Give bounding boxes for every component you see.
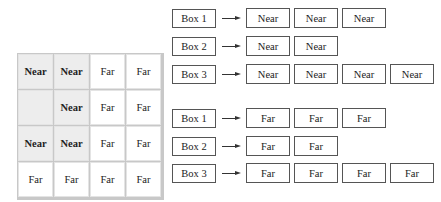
far-group-row: Box 2FarFar bbox=[172, 136, 342, 156]
grid-cell: Near bbox=[18, 126, 53, 161]
near-group-row: Box 3NearNearNearNear bbox=[172, 64, 438, 84]
grid-cell: Far bbox=[126, 54, 161, 89]
box-label: Box 1 bbox=[172, 109, 216, 128]
grid-cell: Near bbox=[54, 54, 89, 89]
grid-cell: Near bbox=[54, 90, 89, 125]
output-box: Far bbox=[390, 163, 434, 183]
box-label: Box 3 bbox=[172, 164, 216, 183]
output-box: Far bbox=[294, 108, 338, 128]
output-box: Far bbox=[294, 163, 338, 183]
output-box: Far bbox=[246, 108, 290, 128]
grid-cell: Far bbox=[126, 126, 161, 161]
grid-cell: Far bbox=[90, 126, 125, 161]
output-box: Near bbox=[342, 8, 386, 28]
output-box: Near bbox=[246, 36, 290, 56]
output-box: Far bbox=[342, 108, 386, 128]
grid-cell: Far bbox=[90, 90, 125, 125]
grid-cell: Far bbox=[90, 54, 125, 89]
box-label: Box 1 bbox=[172, 9, 216, 28]
far-group-row: Box 3FarFarFarFar bbox=[172, 163, 438, 183]
output-box: Near bbox=[246, 8, 290, 28]
arrow-right-icon bbox=[220, 36, 242, 56]
arrow-right-icon bbox=[220, 136, 242, 156]
grid-cell: Far bbox=[90, 162, 125, 197]
box-label: Box 2 bbox=[172, 137, 216, 156]
grid-cell: Far bbox=[54, 162, 89, 197]
output-box: Near bbox=[294, 8, 338, 28]
grid-cell: Far bbox=[126, 162, 161, 197]
output-box: Near bbox=[294, 36, 338, 56]
output-box: Near bbox=[246, 64, 290, 84]
box-label: Box 2 bbox=[172, 37, 216, 56]
grid-cell bbox=[18, 90, 53, 125]
output-box: Near bbox=[342, 64, 386, 84]
output-box: Near bbox=[390, 64, 434, 84]
output-box: Far bbox=[246, 163, 290, 183]
grid-cell: Near bbox=[18, 54, 53, 89]
grid-cell: Far bbox=[18, 162, 53, 197]
arrow-right-icon bbox=[220, 64, 242, 84]
near-group-row: Box 2NearNear bbox=[172, 36, 342, 56]
output-box: Far bbox=[246, 136, 290, 156]
grid-cell: Near bbox=[54, 126, 89, 161]
output-box: Far bbox=[342, 163, 386, 183]
near-group-row: Box 1NearNearNear bbox=[172, 8, 390, 28]
grid-cell: Far bbox=[126, 90, 161, 125]
arrow-right-icon bbox=[220, 163, 242, 183]
output-box: Far bbox=[294, 136, 338, 156]
output-box: Near bbox=[294, 64, 338, 84]
box-label: Box 3 bbox=[172, 65, 216, 84]
far-group-row: Box 1FarFarFar bbox=[172, 108, 390, 128]
arrow-right-icon bbox=[220, 108, 242, 128]
arrow-right-icon bbox=[220, 8, 242, 28]
near-far-grid: NearNearFarFarNearFarFarNearNearFarFarFa… bbox=[17, 53, 164, 200]
